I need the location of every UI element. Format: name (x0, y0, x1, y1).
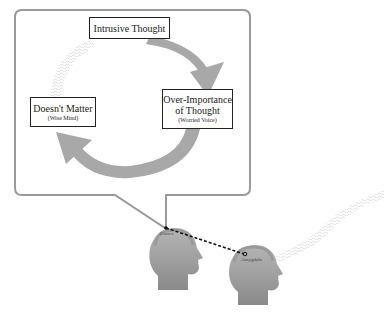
node-doesnt-matter-label: Doesn't Matter (31, 103, 95, 114)
node-over-importance: Over-Importance of Thought (Worried Voic… (162, 89, 233, 129)
node-over-importance-line1: Over-Importance (163, 94, 232, 105)
node-intrusive-thought: Intrusive Thought (89, 17, 170, 39)
head-back (229, 245, 283, 305)
node-over-importance-line2: of Thought (163, 105, 232, 116)
amygdala-label: Amygdala (241, 257, 262, 262)
cortex-label: Cortex (160, 231, 174, 236)
node-doesnt-matter: Doesn't Matter (Wise Mind) (30, 97, 96, 127)
node-doesnt-matter-subtitle: (Wise Mind) (31, 114, 95, 122)
diagram-canvas (0, 0, 387, 315)
node-intrusive-thought-label: Intrusive Thought (90, 23, 169, 34)
node-over-importance-subtitle: (Worried Voice) (163, 116, 232, 124)
wavy-trail-right (268, 190, 384, 264)
